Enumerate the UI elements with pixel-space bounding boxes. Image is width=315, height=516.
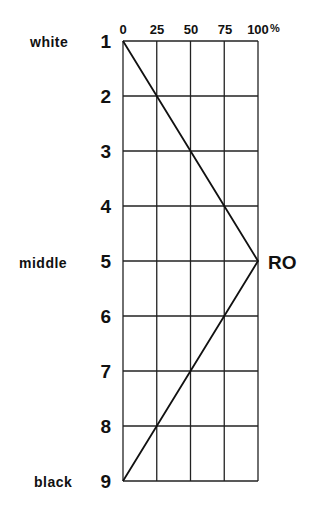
row-label-3: 3 bbox=[100, 141, 111, 162]
row-label-4: 4 bbox=[100, 196, 111, 217]
row-label-7: 7 bbox=[100, 361, 111, 382]
x-tick-25: 25 bbox=[150, 22, 164, 37]
row-label-2: 2 bbox=[100, 86, 111, 107]
grid bbox=[123, 41, 258, 481]
white-label: white bbox=[29, 34, 68, 50]
x-tick-50: 50 bbox=[184, 22, 198, 37]
row-label-1: 1 bbox=[100, 31, 111, 52]
x-tick-75: 75 bbox=[218, 22, 232, 37]
x-tick-100: 100 bbox=[247, 22, 269, 37]
chart-svg: 0 25 50 75 100 % 1 2 3 4 5 6 7 8 9 white… bbox=[0, 0, 315, 516]
row-label-8: 8 bbox=[100, 416, 111, 437]
black-label: black bbox=[34, 474, 72, 490]
row-label-5: 5 bbox=[100, 251, 111, 272]
row-label-6: 6 bbox=[100, 306, 111, 327]
percent-sign: % bbox=[270, 22, 280, 34]
ro-label: RO bbox=[268, 252, 297, 273]
x-tick-0: 0 bbox=[119, 22, 126, 37]
row-label-9: 9 bbox=[100, 471, 111, 492]
middle-label: middle bbox=[19, 255, 67, 271]
